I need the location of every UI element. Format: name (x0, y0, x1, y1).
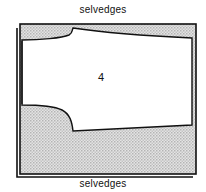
fabric-layout-diagram (0, 0, 206, 192)
pattern-piece-number: 4 (98, 71, 104, 83)
bottom-selvedge-label: selvedges (0, 178, 206, 189)
